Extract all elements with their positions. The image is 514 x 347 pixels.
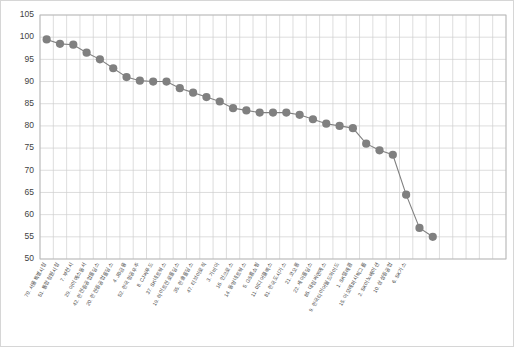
data-point-marker	[162, 77, 170, 85]
data-point-marker	[309, 115, 317, 123]
data-point-marker	[322, 120, 330, 128]
y-axis-tick: 70	[25, 165, 35, 175]
data-point-marker	[176, 84, 184, 92]
y-axis-tick: 55	[25, 231, 35, 241]
y-axis-tick-labels: 50556065707580859095100105	[20, 9, 34, 263]
data-point-marker	[362, 140, 370, 148]
y-axis-tick: 85	[25, 98, 35, 108]
plot-border	[40, 15, 506, 259]
data-point-marker	[256, 109, 264, 117]
y-axis-tick: 65	[25, 187, 35, 197]
y-axis-tick: 105	[20, 9, 34, 19]
data-point-marker	[149, 77, 157, 85]
plot-area-wrapper: 50556065707580859095100105 70. 서울특별시청51.…	[1, 1, 514, 347]
y-axis-tick: 90	[25, 76, 35, 86]
data-point-marker	[415, 224, 423, 232]
y-axis-tick: 60	[25, 209, 35, 219]
data-point-marker	[229, 104, 237, 112]
data-point-marker	[402, 191, 410, 199]
data-point-marker	[296, 111, 304, 119]
vertical-gridlines	[40, 15, 506, 259]
data-point-marker	[136, 77, 144, 85]
horizontal-gridlines	[40, 15, 506, 259]
y-axis-tick: 50	[25, 253, 35, 263]
data-point-marker	[375, 146, 383, 154]
y-axis-tick: 80	[25, 120, 35, 130]
data-point-marker	[216, 97, 224, 105]
data-point-marker	[282, 109, 290, 117]
data-point-marker	[109, 64, 117, 72]
data-point-marker	[202, 93, 210, 101]
data-point-marker	[69, 41, 77, 49]
y-axis-tick: 95	[25, 54, 35, 64]
data-point-marker	[335, 122, 343, 130]
data-point-marker	[189, 89, 197, 97]
line-chart-svg: 50556065707580859095100105 70. 서울특별시청51.…	[1, 1, 514, 347]
x-axis-tick-labels: 70. 서울특별시청51. 통합창원시청7. 부천시29. 아이에스동서42. …	[22, 261, 408, 313]
data-point-marker	[429, 233, 437, 241]
chart-container: 50556065707580859095100105 70. 서울특별시청51.…	[0, 0, 514, 347]
y-axis-tick: 75	[25, 142, 35, 152]
data-point-marker	[96, 55, 104, 63]
data-point-marker	[242, 106, 250, 114]
data-point-marker	[389, 151, 397, 159]
data-point-marker	[122, 73, 130, 81]
data-point-marker	[83, 49, 91, 57]
data-point-marker	[269, 109, 277, 117]
data-point-marker	[349, 124, 357, 132]
data-point-marker	[56, 40, 64, 48]
data-point-marker	[43, 35, 51, 43]
y-axis-tick: 100	[20, 31, 34, 41]
